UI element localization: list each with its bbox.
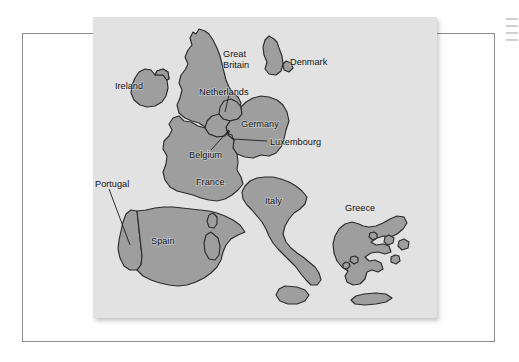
map-label-greece: Greece — [345, 203, 375, 213]
map-label-netherlands: Netherlands — [199, 87, 249, 97]
map-label-italy: Italy — [265, 196, 282, 206]
country-italy — [242, 177, 321, 285]
margin-mark — [506, 18, 518, 20]
map-panel: Great Britain Ireland Denmark Netherland… — [93, 17, 437, 318]
map-label-luxembourg: Luxembourg — [270, 137, 321, 147]
map-label-france: France — [196, 177, 225, 187]
map-label-ireland: Ireland — [115, 81, 143, 91]
map-label-germany: Germany — [241, 119, 279, 129]
europe-map: Great Britain Ireland Denmark Netherland… — [93, 17, 437, 318]
margin-mark — [506, 32, 518, 34]
map-label-spain: Spain — [151, 236, 175, 246]
map-label-denmark: Denmark — [290, 57, 328, 67]
country-greece — [333, 216, 407, 285]
margin-text-fragments — [506, 18, 518, 66]
margin-mark — [506, 25, 518, 27]
margin-mark — [506, 39, 518, 41]
island-sicily — [276, 286, 309, 304]
map-label-portugal: Portugal — [95, 179, 129, 189]
island-aegean-2 — [398, 239, 409, 250]
island-aegean-3 — [391, 255, 400, 264]
country-spain — [137, 207, 245, 286]
country-denmark — [263, 36, 283, 75]
island-crete — [351, 293, 392, 305]
map-label-belgium: Belgium — [189, 150, 223, 160]
island-aegean-1 — [384, 235, 394, 245]
book-page: Great Britain Ireland Denmark Netherland… — [0, 0, 519, 362]
map-label-great-britain: Great Britain — [223, 49, 249, 70]
island-corsica — [207, 213, 217, 228]
